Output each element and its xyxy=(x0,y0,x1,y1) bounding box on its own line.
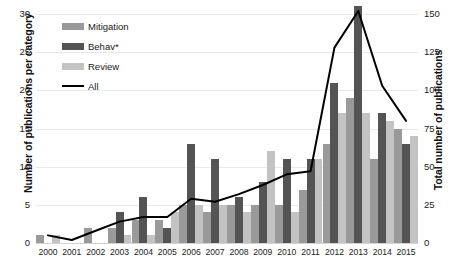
x-tick-2015: 2015 xyxy=(397,247,416,257)
x-tick-2013: 2013 xyxy=(349,247,368,257)
bar-review-2014 xyxy=(386,121,394,243)
bar-review-2010 xyxy=(291,212,299,243)
x-tick-2010: 2010 xyxy=(277,247,296,257)
x-tick-2005: 2005 xyxy=(158,247,177,257)
bar-mitigation-2003 xyxy=(108,228,116,243)
bar-behav-2010 xyxy=(283,159,291,243)
bar-mitigation-2010 xyxy=(275,205,283,243)
bar-review-2012 xyxy=(338,113,346,243)
bar-mitigation-2007 xyxy=(203,212,211,243)
bar-mitigation-2006 xyxy=(179,205,187,243)
bar-review-2006 xyxy=(195,205,203,243)
bar-mitigation-2008 xyxy=(227,205,235,243)
y-tick-right-100: 100 xyxy=(424,84,440,95)
gridline xyxy=(36,243,418,244)
y-tick-left-30: 30 xyxy=(19,8,30,19)
bar-review-2009 xyxy=(267,151,275,243)
bar-review-2011 xyxy=(315,159,323,243)
bar-behav-2003 xyxy=(116,212,124,243)
y-axis-right-title: Total number of publications xyxy=(432,45,444,195)
bar-mitigation-2015 xyxy=(394,129,402,244)
bar-group-2009 xyxy=(251,14,275,243)
bar-behav-2011 xyxy=(307,159,315,243)
y-tick-left-5: 5 xyxy=(25,199,30,210)
bar-review-2005 xyxy=(171,212,179,243)
x-tick-2002: 2002 xyxy=(86,247,105,257)
bar-review-2000 xyxy=(52,235,60,243)
bar-review-2004 xyxy=(147,235,155,243)
x-tick-2000: 2000 xyxy=(38,247,57,257)
bar-group-2014 xyxy=(370,14,394,243)
legend-label: Behav* xyxy=(88,41,119,52)
legend-item-all[interactable]: All xyxy=(62,76,172,96)
y-tick-right-75: 75 xyxy=(424,123,435,134)
legend-label: Mitigation xyxy=(88,21,129,32)
bar-group-2010 xyxy=(275,14,299,243)
legend-swatch-behav-icon xyxy=(62,43,84,50)
bar-mitigation-2012 xyxy=(323,144,331,243)
bar-group-2008 xyxy=(227,14,251,243)
bar-behav-2015 xyxy=(402,144,410,243)
legend-item-review[interactable]: Review xyxy=(62,56,172,76)
x-tick-2008: 2008 xyxy=(229,247,248,257)
x-tick-2004: 2004 xyxy=(134,247,153,257)
bar-group-2007 xyxy=(203,14,227,243)
bar-review-2013 xyxy=(362,113,370,243)
bar-mitigation-2005 xyxy=(155,220,163,243)
bar-mitigation-2013 xyxy=(346,98,354,243)
bar-group-2000 xyxy=(36,14,60,243)
x-tick-2001: 2001 xyxy=(62,247,81,257)
bar-behav-2007 xyxy=(211,159,219,243)
bar-mitigation-2002 xyxy=(84,228,92,243)
y-tick-left-15: 15 xyxy=(19,123,30,134)
y-tick-right-150: 150 xyxy=(424,8,440,19)
bar-mitigation-2011 xyxy=(299,190,307,243)
bar-mitigation-2014 xyxy=(370,159,378,243)
bar-group-2013 xyxy=(346,14,370,243)
bar-behav-2009 xyxy=(259,182,267,243)
y-tick-right-0: 0 xyxy=(424,237,429,248)
y-tick-left-0: 0 xyxy=(25,237,30,248)
bar-mitigation-2000 xyxy=(36,235,44,243)
bar-group-2012 xyxy=(323,14,347,243)
legend-item-mitigation[interactable]: Mitigation xyxy=(62,16,172,36)
x-tick-2009: 2009 xyxy=(253,247,272,257)
x-tick-2003: 2003 xyxy=(110,247,129,257)
x-tick-2014: 2014 xyxy=(373,247,392,257)
legend-label: Review xyxy=(88,61,119,72)
bar-behav-2004 xyxy=(139,197,147,243)
bar-mitigation-2004 xyxy=(132,220,140,243)
x-tick-2012: 2012 xyxy=(325,247,344,257)
publications-bar-line-chart: Number of publications per category Tota… xyxy=(0,0,459,269)
bar-review-2007 xyxy=(219,205,227,243)
bar-group-2006 xyxy=(179,14,203,243)
legend-swatch-mitigation-icon xyxy=(62,23,84,30)
y-tick-right-50: 50 xyxy=(424,161,435,172)
bar-review-2003 xyxy=(124,235,132,243)
legend-item-behav[interactable]: Behav* xyxy=(62,36,172,56)
legend-swatch-line-icon xyxy=(62,85,84,87)
legend-label: All xyxy=(88,81,99,92)
bar-group-2011 xyxy=(299,14,323,243)
y-tick-right-125: 125 xyxy=(424,46,440,57)
bar-mitigation-2009 xyxy=(251,205,259,243)
bar-behav-2014 xyxy=(378,113,386,243)
x-axis-ticks: 2000200120022003200420052006200720082009… xyxy=(36,245,418,265)
bar-group-2015 xyxy=(394,14,418,243)
y-tick-left-20: 20 xyxy=(19,84,30,95)
bar-behav-2008 xyxy=(235,197,243,243)
bar-behav-2013 xyxy=(354,6,362,243)
y-tick-left-25: 25 xyxy=(19,46,30,57)
x-tick-2011: 2011 xyxy=(301,247,319,257)
chart-legend: MitigationBehav*ReviewAll xyxy=(62,16,172,96)
y-tick-right-25: 25 xyxy=(424,199,435,210)
y-tick-left-10: 10 xyxy=(19,161,30,172)
bar-review-2015 xyxy=(410,136,418,243)
bar-behav-2005 xyxy=(163,228,171,243)
bar-behav-2012 xyxy=(330,83,338,243)
bar-review-2008 xyxy=(243,212,251,243)
x-tick-2007: 2007 xyxy=(206,247,225,257)
bar-behav-2006 xyxy=(187,144,195,243)
x-tick-2006: 2006 xyxy=(182,247,201,257)
legend-swatch-review-icon xyxy=(62,63,84,70)
